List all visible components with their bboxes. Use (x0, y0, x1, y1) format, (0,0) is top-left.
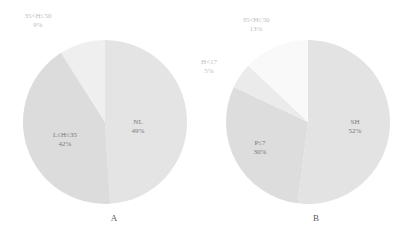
slice-percent: 13% (250, 25, 263, 33)
slice-label: H<17 (201, 58, 218, 66)
slice-label: NL (133, 118, 142, 126)
slice-label: 35<H≤50 (25, 12, 52, 20)
slice-percent: 49% (132, 127, 145, 135)
pie-slice (105, 40, 187, 204)
slice-percent: 52% (349, 127, 362, 135)
chart-b-caption: B (313, 213, 319, 223)
slice-label: SH (351, 118, 360, 126)
pie-slice (298, 40, 390, 204)
chart-canvas: NL49%L≤H≤3542%35<H≤509% SH52%P≤730%H<175… (0, 0, 409, 239)
chart-a-caption: A (111, 213, 118, 223)
pie-chart-b: SH52%P≤730%H<175%35<H≤5013% (201, 16, 390, 204)
slice-label: 35<H≤50 (243, 16, 270, 24)
slice-percent: 30% (254, 148, 267, 156)
slice-percent: 9% (33, 21, 43, 29)
slice-label: P≤7 (254, 139, 266, 147)
slice-percent: 42% (59, 140, 72, 148)
pie-chart-figure: NL49%L≤H≤3542%35<H≤509% SH52%P≤730%H<175… (0, 0, 409, 239)
slice-percent: 5% (204, 67, 214, 75)
slice-label: L≤H≤35 (53, 131, 78, 139)
pie-chart-a: NL49%L≤H≤3542%35<H≤509% (23, 12, 187, 204)
